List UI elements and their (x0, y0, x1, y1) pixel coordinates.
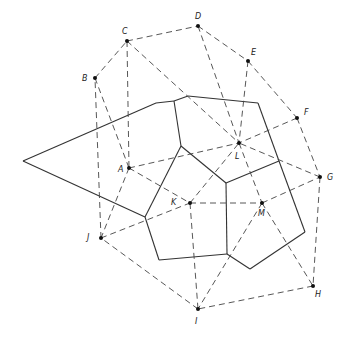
voronoi-polygon-edges (23, 96, 305, 269)
dashed-edge-C-L (127, 41, 239, 143)
dashed-edge-C-A (127, 41, 129, 168)
site-point-B (93, 76, 97, 80)
site-label-F: F (304, 108, 309, 117)
polygon-edge (279, 161, 305, 232)
site-label-K: K (171, 198, 177, 207)
polygon-edge (159, 254, 227, 260)
dashed-edge-H-I (198, 286, 313, 309)
dashed-edge-D-L (198, 26, 239, 143)
dashed-edge-C-D (127, 26, 198, 41)
site-label-I: I (195, 317, 198, 326)
dashed-edge-A-K (129, 168, 190, 203)
polygon-edge (227, 254, 250, 269)
dashed-edge-G-L (239, 143, 320, 177)
site-point-H (311, 284, 315, 288)
polygon-edge (250, 232, 305, 269)
site-point-E (246, 59, 250, 63)
dashed-edge-I-J (101, 238, 198, 309)
dashed-edge-A-L (129, 143, 239, 168)
voronoi-delaunay-diagram: ABCDEFGHIJKLM (0, 0, 350, 338)
dashed-edge-G-H (313, 177, 320, 286)
site-label-B: B (82, 74, 88, 83)
site-labels: ABCDEFGHIJKLM (82, 12, 333, 326)
dashed-edge-F-G (297, 118, 320, 177)
site-label-J: J (85, 233, 90, 242)
site-label-E: E (251, 48, 257, 57)
site-point-J (99, 236, 103, 240)
polygon-edge (156, 101, 174, 103)
dashed-edge-M-H (262, 203, 313, 286)
site-point-F (295, 116, 299, 120)
dashed-edge-B-A (95, 78, 129, 168)
dashed-edge-L-M (239, 143, 262, 203)
polygon-edge (145, 217, 159, 260)
site-label-H: H (315, 290, 321, 299)
site-label-D: D (195, 12, 201, 21)
polygon-edge (23, 103, 156, 161)
dashed-edge-M-G (262, 177, 320, 203)
dashed-edge-D-E (198, 26, 248, 61)
site-point-K (188, 201, 192, 205)
dashed-edge-J-B (95, 78, 101, 238)
site-point-M (260, 201, 264, 205)
site-point-G (318, 175, 322, 179)
dashed-edge-E-F (248, 61, 297, 118)
site-label-A: A (117, 165, 123, 174)
dashed-edge-B-C (95, 41, 127, 78)
polygon-edge (174, 101, 181, 146)
site-label-L: L (235, 152, 239, 161)
site-point-D (196, 24, 200, 28)
site-label-C: C (122, 27, 128, 36)
polygon-edge (226, 161, 279, 183)
site-point-C (125, 39, 129, 43)
dashed-edge-J-K (101, 203, 190, 238)
site-label-G: G (327, 173, 333, 182)
site-point-L (237, 141, 241, 145)
dashed-edge-F-L (239, 118, 297, 143)
site-label-M: M (258, 209, 265, 218)
diagram-canvas: ABCDEFGHIJKLM (0, 0, 350, 338)
dashed-edge-K-I (190, 203, 198, 309)
site-point-A (127, 166, 131, 170)
polygon-edge (174, 96, 188, 101)
site-point-I (196, 307, 200, 311)
polygon-edge (226, 183, 227, 254)
polygon-edge (181, 146, 226, 183)
polygon-edge (23, 161, 145, 217)
